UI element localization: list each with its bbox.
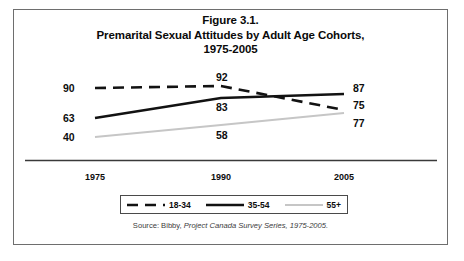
value-label-left-18-34: 90	[63, 82, 75, 94]
legend-swatch-light-icon	[285, 201, 323, 209]
legend-item-18-34: 18-34	[127, 200, 191, 210]
legend-label-35-54: 35-54	[248, 200, 270, 210]
legend-label-55plus: 55+	[327, 200, 341, 210]
value-label-left-55plus: 40	[63, 131, 75, 143]
value-label-left-35-54: 63	[63, 112, 75, 124]
value-label-right-18-34: 75	[353, 99, 365, 111]
legend-item-55plus: 55+	[285, 200, 341, 210]
chart-legend: 18-34 35-54 55+	[120, 195, 348, 214]
source-citation: Project Canada Survey Series, 1975-2005.	[184, 221, 328, 230]
source-prefix: Source: Bibby,	[133, 221, 184, 230]
value-label-mid-35-54: 83	[216, 101, 228, 113]
value-label-mid-55plus: 58	[216, 129, 228, 141]
x-tick-2005: 2005	[320, 172, 368, 182]
value-label-mid-18-34: 92	[216, 71, 228, 83]
value-label-right-35-54: 87	[353, 82, 365, 94]
value-label-right-55plus: 77	[353, 117, 365, 129]
source-note: Source: Bibby, Project Canada Survey Ser…	[14, 221, 447, 230]
legend-swatch-solid-icon	[206, 201, 244, 209]
figure-container: Figure 3.1. Premarital Sexual Attitudes …	[0, 0, 464, 261]
x-tick-1990: 1990	[197, 172, 245, 182]
legend-swatch-dashed-icon	[127, 201, 165, 209]
x-tick-1975: 1975	[71, 172, 119, 182]
legend-label-18-34: 18-34	[169, 200, 191, 210]
legend-item-35-54: 35-54	[206, 200, 270, 210]
